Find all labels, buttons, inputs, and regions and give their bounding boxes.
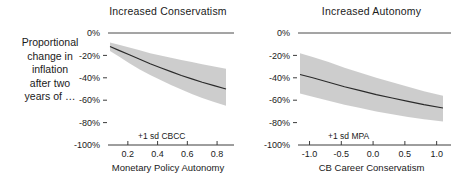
x-axis-tick-label: 0.5: [399, 149, 412, 159]
y-axis-tick-label: -20%: [269, 51, 290, 61]
x-axis-title: CB Career Conservatism: [319, 162, 425, 173]
confidence-band: [110, 43, 226, 106]
x-axis-tick-label: 1.0: [430, 149, 443, 159]
x-axis-tick-label: 0.8: [211, 149, 224, 159]
panel-title: Increased Conservatism: [109, 5, 227, 17]
confidence-band: [300, 53, 443, 121]
x-axis-tick-label: 0.4: [151, 149, 164, 159]
y-axis-tick-label: -100%: [264, 140, 290, 150]
y-axis-description-label: Proportional change in inflation after t…: [4, 36, 96, 104]
panel-left: Increased Conservatism0%-20%-40%-60%-80%…: [74, 5, 234, 173]
x-axis-tick-label: 0.0: [367, 149, 380, 159]
y-axis-tick-label: -80%: [269, 118, 290, 128]
x-axis-tick-label: -0.5: [334, 149, 350, 159]
figure-root: Proportional change in inflation after t…: [0, 0, 461, 190]
x-axis-tick-label: 0.6: [181, 149, 194, 159]
y-axis-tick-label: 0%: [277, 28, 290, 38]
x-axis-title: Monetary Policy Autonomy: [112, 162, 225, 173]
x-axis-tick-label: -1.0: [302, 149, 318, 159]
side-label-line: change in: [4, 50, 96, 64]
side-label-line: inflation: [4, 63, 96, 77]
y-axis-tick-label: -60%: [269, 95, 290, 105]
side-label-line: after two: [4, 77, 96, 91]
panel-annotation: +1 sd MPA: [328, 131, 370, 141]
panel-right: Increased Autonomy0%-20%-40%-60%-80%-100…: [264, 5, 451, 173]
panel-annotation: +1 sd CBCC: [138, 131, 185, 141]
y-axis-tick-label: -80%: [79, 118, 100, 128]
panel-title: Increased Autonomy: [322, 5, 422, 17]
side-label-line: years of …: [4, 90, 96, 104]
x-axis-tick-label: 0.2: [122, 149, 135, 159]
y-axis-tick-label: -40%: [269, 73, 290, 83]
side-label-line: Proportional: [4, 36, 96, 50]
y-axis-tick-label: -100%: [74, 140, 100, 150]
